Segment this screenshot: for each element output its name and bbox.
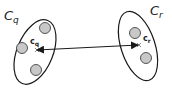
- centroid-q-label: cq: [30, 37, 39, 48]
- cluster-q-point: [40, 23, 51, 34]
- cluster-q: [6, 14, 65, 91]
- centroid-r-label: cr: [143, 34, 151, 44]
- cluster-q-point: [31, 65, 42, 76]
- centroid-distance-arrow: [37, 45, 138, 50]
- cluster-q-label: Cq: [4, 8, 19, 25]
- diagram-svg: Cq Cr cq cr: [0, 0, 172, 92]
- cluster-r-point: [130, 28, 141, 39]
- cluster-distance-diagram: Cq Cr cq cr: [0, 0, 172, 92]
- cluster-r-label: Cr: [150, 3, 164, 20]
- cluster-r-point: [141, 53, 152, 64]
- cluster-q-point: [17, 43, 28, 54]
